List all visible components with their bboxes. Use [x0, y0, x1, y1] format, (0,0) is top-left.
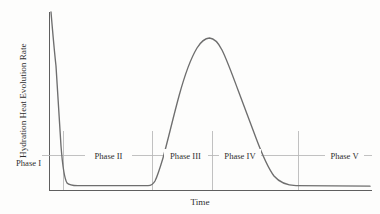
- phase-label-phase-i: Phase I: [16, 158, 41, 168]
- hydration-heat-chart: Hydration Heat Evolution Rate Time Phase…: [0, 0, 380, 214]
- phase-label-phase-iii: Phase III: [170, 151, 201, 161]
- y-axis-title: Hydration Heat Evolution Rate: [18, 43, 28, 158]
- phase-labels-group: Phase I Phase II Phase III Phase IV Phas…: [16, 149, 364, 168]
- chart-canvas: Hydration Heat Evolution Rate Time Phase…: [0, 0, 380, 214]
- phase-label-phase-ii: Phase II: [95, 151, 123, 161]
- x-axis-title: Time: [190, 197, 209, 207]
- phase-label-phase-iv: Phase IV: [224, 151, 256, 161]
- phase-label-phase-v: Phase V: [330, 151, 359, 161]
- axis-titles-group: Hydration Heat Evolution Rate Time: [18, 43, 210, 207]
